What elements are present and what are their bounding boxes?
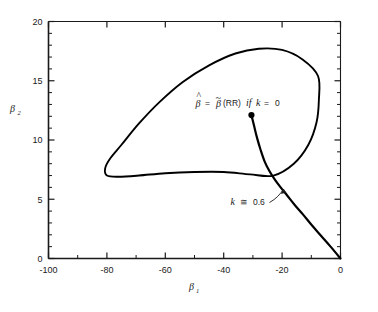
k-value-text: 0.6 [253,197,265,207]
y-axis-title-text: β [9,103,15,114]
y-tick-label: 5 [37,195,42,205]
equals-sign-2: = [264,98,269,108]
ols-estimate-point-marker [248,112,254,118]
x-tick-label: -100 [39,265,57,275]
x-axis-title-text: β [188,281,194,292]
x-tick-label: -60 [159,265,172,275]
k-symbol-2: k [231,196,236,207]
k-symbol-1: k [256,97,261,108]
approx-equals-sign: ≅ [240,197,248,207]
ridge-trace-chart: -100-80-60-40-20005101520 β 2 β 1 β ^ = … [0,0,378,312]
x-tick-label: -40 [217,265,230,275]
rr-label: (RR) [223,98,241,108]
x-tick-label: -80 [100,265,113,275]
y-tick-label: 20 [32,17,42,27]
x-axis-title-subscript: 1 [196,287,199,294]
y-tick-label: 0 [37,254,42,264]
x-tick-label: -20 [276,265,289,275]
tilde-accent: ~ [216,92,222,103]
x-tick-label: 0 [338,265,343,275]
y-tick-label: 15 [32,76,42,86]
equals-sign-1: = [205,98,210,108]
zero-value: 0 [275,98,280,108]
y-tick-label: 10 [32,135,42,145]
ridge-trace-figure: -100-80-60-40-20005101520 β 2 β 1 β ^ = … [0,0,378,312]
